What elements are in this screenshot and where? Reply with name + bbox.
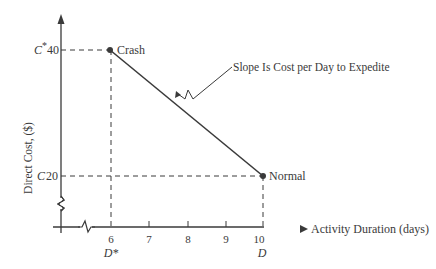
y-axis-arrow-icon [58, 14, 65, 24]
crash-point [107, 47, 113, 53]
crash-label: Crash [117, 43, 145, 57]
x-tick-7: 7 [146, 233, 152, 245]
x-axis-break-icon [78, 221, 95, 232]
normal-point [260, 173, 266, 179]
x-sublabel-d-star: D* [103, 246, 119, 260]
x-sublabel-d: D [257, 246, 267, 260]
x-tick-10: 10 [254, 233, 266, 245]
x-tick-6: 6 [108, 233, 114, 245]
slope-leader-arrow-icon [175, 91, 181, 98]
x-axis-arrow-icon [300, 225, 308, 233]
slope-note: Slope Is Cost per Day to Expedite [233, 61, 390, 74]
x-tick-9: 9 [223, 233, 229, 245]
y-tick-c: C [37, 169, 46, 183]
x-tick-8: 8 [185, 233, 191, 245]
slope-leader-line [178, 67, 232, 99]
y-tick-40: 40 [47, 43, 59, 57]
normal-label: Normal [269, 169, 306, 183]
cost-duration-diagram: Crash Normal Slope Is Cost per Day to Ex… [0, 0, 436, 269]
x-axis-label: Activity Duration (days) [311, 222, 429, 236]
y-axis-label: Direct Cost, ($) [22, 122, 35, 194]
y-tick-20: 20 [46, 169, 58, 183]
